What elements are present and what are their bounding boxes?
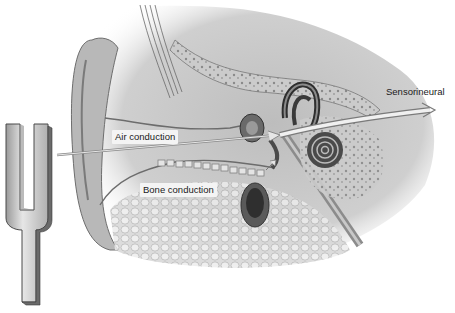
air-conduction-label: Air conduction bbox=[112, 130, 178, 144]
ear-conduction-diagram: Air conduction Bone conduction Sensorine… bbox=[0, 0, 455, 313]
tuning-fork-icon bbox=[6, 124, 52, 305]
ear-illustration bbox=[0, 0, 455, 313]
bone-conduction-label: Bone conduction bbox=[140, 183, 217, 197]
sensorineural-label: Sensorineural bbox=[383, 85, 448, 99]
